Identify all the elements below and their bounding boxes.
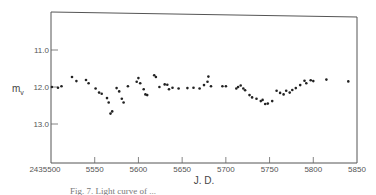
data-point [264,103,267,106]
data-point [106,97,109,100]
data-point [186,87,189,90]
data-point [198,87,201,90]
data-point [192,86,195,89]
data-point [309,79,312,82]
data-point [305,82,308,85]
y-tick-label: 13.0 [33,120,49,129]
y-tick-label: 11.0 [34,46,50,55]
data-point [139,82,142,85]
data-point [158,86,161,89]
data-point [207,75,210,78]
data-point [98,91,101,94]
data-point [282,93,285,96]
data-point [299,84,302,87]
data-point [288,91,291,94]
data-point [285,89,288,92]
data-point [275,89,278,92]
data-point [109,112,112,115]
data-point [325,78,328,81]
data-point [111,110,114,113]
plot-frame [51,12,357,163]
data-point [267,102,270,105]
x-tick-label: 5700 [217,165,235,174]
data-point [312,80,315,83]
data-point [60,85,63,88]
x-tick-label: 5550 [86,165,104,174]
data-point [237,86,240,89]
data-point [87,82,90,85]
data-point [118,90,121,93]
data-point [100,92,103,95]
data-point [71,76,74,79]
x-tick-label: 2435500 [29,165,61,174]
y-ticks: 11.012.013.0 [33,46,58,129]
data-point [115,87,118,90]
x-tick-label: 5850 [348,165,366,174]
x-tick-label: 5650 [173,165,191,174]
x-tick-label: 5750 [261,165,279,174]
data-point [85,79,88,82]
data-point [51,86,54,89]
data-point [75,80,78,83]
data-point [107,101,110,104]
y-axis-title-sub: v [20,89,24,96]
data-point [137,77,140,80]
data-point [239,84,242,87]
data-point [94,87,97,90]
data-point [142,88,145,91]
data-point [177,87,180,90]
data-points [51,74,350,115]
data-point [271,100,274,103]
data-point [279,92,282,95]
data-point [121,98,124,101]
data-point [122,101,125,104]
data-point [168,88,171,91]
data-point [206,81,209,84]
figure-caption: Fig. 7. Light curve of ... [70,186,156,195]
y-tick-label: 12.0 [33,83,49,92]
frame-top [51,12,357,17]
data-point [248,94,251,97]
data-point [225,85,228,88]
data-point [210,85,213,88]
data-point [295,87,298,90]
light-curve-chart: 24355005550560056505700575058005850 11.0… [0,0,376,195]
y-axis-title: mv [12,83,24,96]
y-axis-title-main: m [12,83,20,94]
data-point [127,85,130,88]
data-point [166,84,169,87]
data-point [291,89,294,92]
data-point [255,98,258,101]
data-point [303,79,306,82]
data-point [221,85,224,88]
x-axis-title: J. D. [194,175,215,186]
data-point [261,99,264,102]
data-point [146,94,149,97]
data-point [251,96,254,99]
data-point [347,80,350,83]
data-point [155,76,158,79]
x-tick-label: 5800 [304,165,322,174]
data-point [57,86,60,89]
x-tick-label: 5600 [130,165,148,174]
data-point [203,84,206,87]
x-ticks: 24355005550560056505700575058005850 [29,157,366,174]
data-point [171,86,174,89]
data-point [163,83,166,86]
data-point [244,89,247,92]
data-point [135,81,138,84]
